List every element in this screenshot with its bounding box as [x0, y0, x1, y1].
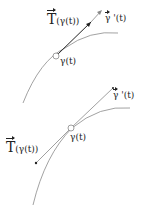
bottom-velocity-label-suffix: '(t): [118, 90, 134, 100]
top-curve: [23, 33, 118, 103]
bottom-point-marker: [68, 125, 74, 131]
top-point-marker: [53, 53, 59, 59]
top-point-label: γ(t): [60, 57, 76, 66]
bottom-field-endpoint: [35, 162, 37, 164]
diagram-canvas: [0, 0, 147, 210]
top-velocity-label-suffix: '(t): [110, 13, 126, 23]
bottom-tangent-vector-field: [36, 128, 71, 163]
top-field-label-main: T: [47, 12, 56, 26]
bottom-velocity-label-main: γ: [113, 91, 118, 100]
bottom-field-label-main: T: [6, 140, 15, 154]
top-velocity-label: γ '(t): [105, 14, 126, 23]
top-field-label: T(γ(t)): [47, 12, 79, 26]
bottom-curve: [33, 108, 130, 205]
top-velocity-label-main: γ: [105, 14, 110, 23]
bottom-point-label: γ(t): [70, 133, 86, 142]
bottom-field-label: T(γ(t)): [6, 140, 38, 154]
top-field-label-arg: (γ(t)): [56, 16, 79, 26]
top-tangent-vector-field: [57, 22, 91, 55]
bottom-velocity-label: γ '(t): [113, 91, 134, 100]
bottom-velocity-vector: [71, 88, 113, 128]
bottom-field-label-arg: (γ(t)): [15, 144, 38, 154]
